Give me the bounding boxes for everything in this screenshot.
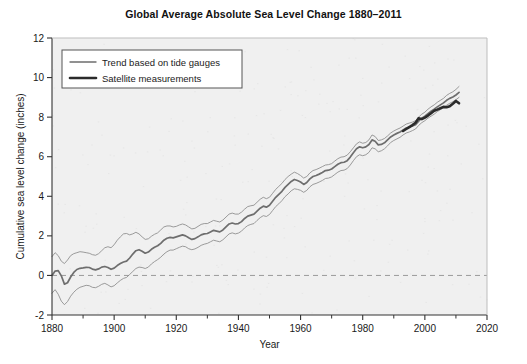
- x-tick-label: 2000: [414, 323, 437, 334]
- legend-label-2: Satellite measurements: [102, 73, 202, 84]
- y-tick-label: 4: [38, 191, 44, 202]
- y-tick-label: 0: [38, 270, 44, 281]
- x-tick-label: 1900: [103, 323, 126, 334]
- x-tick-label: 1960: [289, 323, 312, 334]
- y-tick-label: -2: [35, 310, 44, 321]
- figure: Global Average Absolute Sea Level Change…: [0, 0, 527, 364]
- y-axis-title: Cumulative sea level change (inches): [15, 93, 26, 259]
- y-tick-label: 10: [33, 72, 45, 83]
- x-tick-label: 1940: [227, 323, 250, 334]
- legend-label-1: Trend based on tide gauges: [102, 57, 220, 68]
- x-tick-label: 1980: [352, 323, 375, 334]
- y-tick-label: 12: [33, 33, 45, 44]
- x-tick-label: 2020: [476, 323, 499, 334]
- x-axis-title: Year: [259, 339, 280, 350]
- chart-canvas: -202468101218801900192019401960198020002…: [0, 0, 527, 364]
- y-tick-label: 8: [38, 112, 44, 123]
- x-tick-label: 1920: [165, 323, 188, 334]
- y-tick-label: 2: [38, 230, 44, 241]
- x-tick-label: 1880: [41, 323, 64, 334]
- y-tick-label: 6: [38, 151, 44, 162]
